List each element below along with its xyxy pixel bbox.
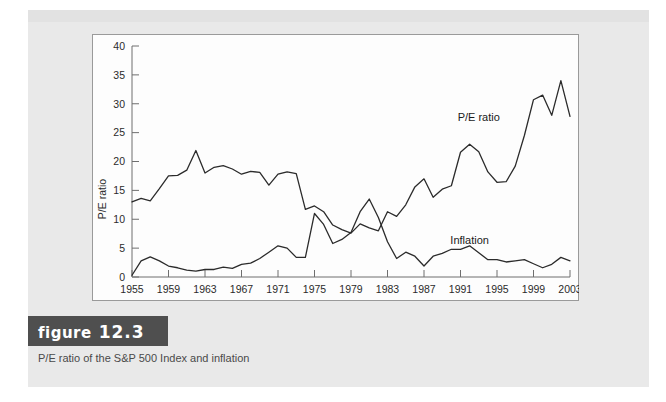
x-axis-tick-label: 1971 [266,283,290,295]
y-axis-tick-label: 10 [113,213,125,225]
y-axis-tick-label: 5 [119,242,125,254]
y-axis: 0510152025303540 [113,40,139,283]
x-axis-tick-label: 1955 [120,283,144,295]
series-line-p-e-ratio [132,81,570,233]
y-axis-tick-label: 25 [113,126,125,138]
figure-badge-number: 12.3 [99,322,145,342]
x-axis-tick-label: 1999 [522,283,546,295]
y-axis-title: P/E ratio [96,179,108,219]
y-axis-tick-label: 0 [119,271,125,283]
page-background-sheen [28,10,649,22]
y-axis-tick-label: 20 [113,155,125,167]
figure-badge-word: figure [38,324,92,342]
x-axis: 1955195919631967197119751979198319871991… [120,270,579,295]
figure-badge-label: figure12.3 [38,320,168,344]
x-axis-tick-label: 1983 [376,283,400,295]
series-line-inflation [132,199,570,275]
series-label-inflation: Inflation [450,234,489,246]
x-axis-tick-label: 1963 [193,283,217,295]
x-axis-tick-label: 1959 [157,283,181,295]
y-axis-title-group: P/E ratio [96,179,108,219]
x-axis-tick-label: 1967 [230,283,254,295]
figure-container: 0510152025303540 19551959196319671971197… [0,0,666,402]
y-axis-tick-label: 35 [113,69,125,81]
x-axis-tick-label: 1995 [485,283,509,295]
x-axis-tick-label: 1975 [303,283,327,295]
x-axis-tick-label: 1987 [412,283,436,295]
x-axis-tick-label: 2003 [558,283,579,295]
y-axis-tick-label: 15 [113,184,125,196]
figure-caption: P/E ratio of the S&P 500 Index and infla… [38,352,488,364]
y-axis-tick-label: 30 [113,98,125,110]
y-axis-tick-label: 40 [113,40,125,52]
x-axis-tick-label: 1979 [339,283,363,295]
series-annotations: P/E ratioInflation [450,111,499,245]
x-axis-tick-label: 1991 [449,283,473,295]
series-label-p-e-ratio: P/E ratio [458,111,500,123]
pe-ratio-inflation-chart: 0510152025303540 19551959196319671971197… [92,34,579,301]
data-series-group [132,81,570,276]
